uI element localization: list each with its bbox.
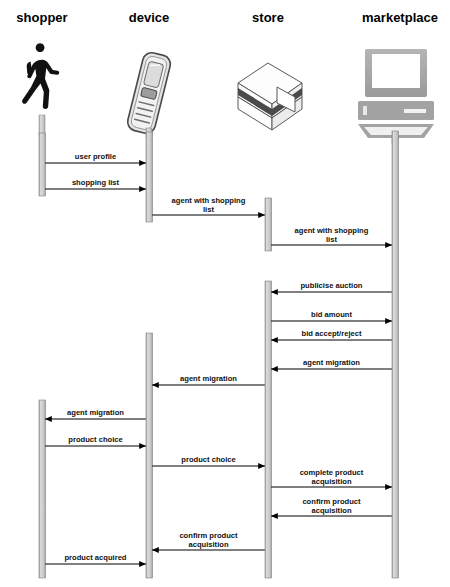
message-label: agent migration xyxy=(180,374,237,383)
activation-bar-store xyxy=(265,281,272,578)
lifeline-title-device: device xyxy=(129,10,169,25)
lifeline-title-marketplace: marketplace xyxy=(362,10,438,25)
message-label: confirm productacquisition xyxy=(179,531,238,549)
message-label: complete productacquisition xyxy=(300,468,364,486)
message-label: product acquired xyxy=(64,553,126,562)
message-labels: user profileshopping listagent with shop… xyxy=(64,152,368,562)
activation-bar-shopper xyxy=(39,133,46,196)
message-label: product choice xyxy=(181,455,235,464)
walking-person-icon xyxy=(22,43,59,109)
message-label: agent with shoppinglist xyxy=(172,196,246,214)
message-label: publicise auction xyxy=(300,281,362,290)
message-label: product choice xyxy=(68,435,122,444)
mobile-phone-icon xyxy=(126,51,173,135)
message-label: agent migration xyxy=(303,358,360,367)
activation-bar-device xyxy=(146,132,153,222)
message-label: agent migration xyxy=(67,408,124,417)
sequence-diagram-canvas: shopper device store marketplace user pr… xyxy=(0,0,450,587)
message-label: agent with shoppinglist xyxy=(295,226,369,244)
activation-bar-store xyxy=(265,198,272,251)
activation-bar-shopper xyxy=(39,400,46,578)
message-label: confirm productacquisition xyxy=(302,497,361,515)
message-label: shopping list xyxy=(72,178,120,187)
lifeline-titles: shopper device store marketplace xyxy=(16,10,438,25)
message-label: bid accept/reject xyxy=(302,329,362,338)
lifeline-title-store: store xyxy=(252,10,284,25)
desktop-computer-icon xyxy=(358,49,434,138)
lifeline-title-shopper: shopper xyxy=(16,10,67,25)
message-label: bid amount xyxy=(311,310,352,319)
activation-bar-marketplace xyxy=(392,131,399,578)
activation-bar-device xyxy=(146,333,153,578)
message-label: user profile xyxy=(75,152,116,161)
server-box-icon xyxy=(238,63,302,130)
